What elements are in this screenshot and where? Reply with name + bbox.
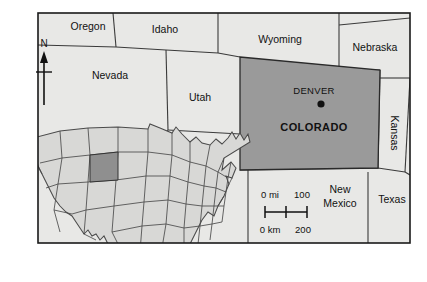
map-canvas: Oregon Idaho Wyoming Nebraska Nevada Uta…: [0, 0, 427, 282]
capital-marker-dot: [317, 100, 324, 107]
focus-state-label-colorado: COLORADO: [280, 121, 347, 133]
us-outline: [33, 124, 250, 272]
state-label-nevada: Nevada: [92, 69, 128, 81]
scale-miles-max-label: 100: [294, 189, 310, 200]
state-label-nebraska: Nebraska: [353, 41, 398, 53]
state-label-utah: Utah: [189, 91, 211, 103]
inset-colorado-highlight: [90, 152, 118, 182]
state-label-kansas: Kansas: [389, 115, 401, 150]
state-label-texas: Texas: [378, 193, 405, 205]
compass-north-label: N: [40, 38, 47, 49]
state-label-oregon: Oregon: [70, 20, 105, 32]
colorado-location-map: Oregon Idaho Wyoming Nebraska Nevada Uta…: [0, 0, 427, 282]
scale-miles-zero-label: 0 mi: [261, 189, 279, 200]
state-label-new-mexico-line1: New: [329, 183, 350, 195]
colorado-polygon: [240, 57, 380, 170]
state-label-new-mexico-line2: Mexico: [323, 197, 356, 209]
scale-km-max-label: 200: [295, 224, 311, 235]
scale-km-zero-label: 0 km: [260, 224, 281, 235]
state-label-wyoming: Wyoming: [258, 33, 302, 45]
united-states-inset-map: [33, 124, 250, 272]
colorado-focus-area: [240, 57, 380, 170]
capital-label-denver: DENVER: [293, 85, 334, 96]
state-label-idaho: Idaho: [152, 23, 178, 35]
